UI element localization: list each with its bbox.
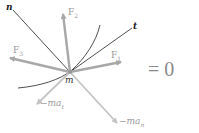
- inertia-normal-arrow: [70, 72, 117, 123]
- label-f3-sub: 3: [19, 50, 23, 57]
- label-ma-n-sub: n: [140, 121, 144, 128]
- label-t: t: [133, 22, 137, 31]
- label-f2-sub: 2: [74, 12, 78, 19]
- label-f1-sub: 1: [117, 55, 121, 62]
- path-curve: [18, 25, 100, 88]
- label-ma-t: −mat: [40, 99, 64, 110]
- force-f3-arrow: [10, 58, 70, 72]
- label-ma-n: −man: [119, 117, 144, 128]
- label-m: m: [65, 76, 74, 85]
- normal-axis-line: [13, 10, 70, 72]
- label-ma-n-main: −ma: [119, 116, 140, 126]
- label-f3: F3: [13, 46, 23, 57]
- label-n: n: [6, 3, 13, 12]
- label-ma-t-main: −ma: [40, 98, 61, 108]
- label-ma-t-sub: t: [61, 103, 63, 110]
- label-f1: F1: [111, 51, 121, 62]
- particle-point: [68, 70, 72, 74]
- equals-zero: = 0: [148, 58, 174, 81]
- force-f2-arrow: [63, 14, 70, 72]
- label-f2: F2: [68, 8, 78, 19]
